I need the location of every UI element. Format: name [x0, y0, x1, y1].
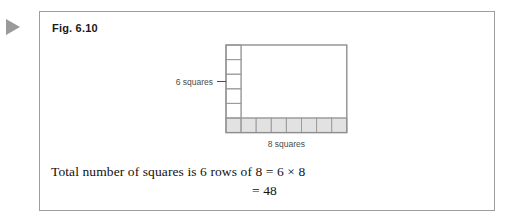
statement-line-2: = 48 — [51, 183, 481, 199]
play-triangle-icon — [6, 19, 20, 35]
statement-block: Total number of squares is 6 rows of 8 =… — [51, 164, 481, 199]
grid-cell-left-column — [226, 103, 241, 118]
grid-cell-bottom-row — [317, 118, 332, 133]
grid-cell-bottom-row — [332, 118, 347, 133]
grid-cell-bottom-row — [241, 118, 256, 133]
grid-cell-left-column — [226, 89, 241, 104]
row-count-label: 6 squares — [176, 77, 213, 87]
grid-cell-left-column — [226, 45, 241, 60]
grid-cell-left-column — [226, 60, 241, 75]
statement-line-1: Total number of squares is 6 rows of 8 =… — [51, 164, 481, 180]
grid-cell-bottom-row — [286, 118, 301, 133]
figure-box: Fig. 6.10 6 squares8 squares Total numbe… — [39, 11, 495, 211]
grid-cell-bottom-row — [302, 118, 317, 133]
grid-cell-left-column — [226, 74, 241, 89]
col-count-label: 8 squares — [268, 139, 305, 149]
grid-cell-bottom-row — [271, 118, 286, 133]
grid-cell-bottom-row — [256, 118, 271, 133]
grid-cell-bottom-row — [226, 118, 241, 133]
